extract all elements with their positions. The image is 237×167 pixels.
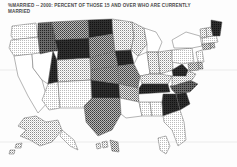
us-map [0,18,237,167]
state-mi [144,28,162,52]
state-ia [115,50,134,66]
state-ak [18,116,62,146]
inset-region [158,136,170,154]
state-de [198,62,203,69]
state-nj [196,50,204,62]
choropleth-figure: %MARRIED -- 2000: PERCENT OF THOSE 15 AN… [0,0,237,167]
state-md [188,62,199,71]
state-wy [55,38,90,60]
state-hi-island-2 [102,141,108,148]
state-ky [140,74,172,84]
chart-title: %MARRIED -- 2000: PERCENT OF THOSE 15 AN… [8,3,230,15]
state-or [9,37,40,56]
state-ak-island-2 [9,150,15,154]
state-ak-panhandle [60,130,78,150]
state-wv [172,64,188,76]
state-hi-island-3 [110,140,119,152]
state-oh [158,50,173,74]
state-hi-island-1 [96,143,101,149]
state-mt [52,20,89,40]
state-mn [112,19,134,51]
state-al [150,102,163,116]
state-ak-aleutians [15,143,22,148]
state-ny [172,32,202,48]
state-wi [131,22,147,56]
state-co [57,58,91,82]
state-me [211,20,222,36]
state-tx [84,98,121,136]
state-tn [139,84,170,94]
chart-title-line-2: MARRIED [8,9,230,15]
state-pa [172,48,194,64]
